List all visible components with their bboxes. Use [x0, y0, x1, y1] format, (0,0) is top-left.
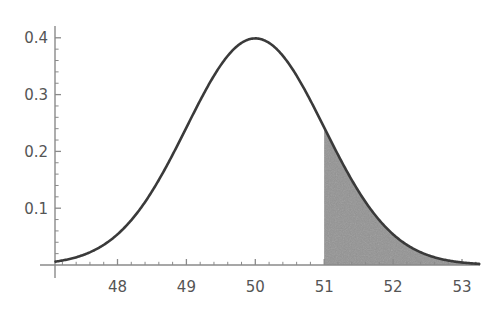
x-axis-tick-labels: 484950515253: [108, 278, 472, 296]
normal-distribution-plot: 484950515253 0.10.20.30.4: [0, 0, 493, 311]
distribution-curve: [55, 38, 479, 263]
x-tick-label: 52: [384, 278, 403, 296]
x-tick-label: 51: [315, 278, 334, 296]
x-tick-label: 49: [177, 278, 196, 296]
x-tick-label: 48: [108, 278, 127, 296]
x-tick-label: 53: [452, 278, 471, 296]
x-tick-label: 50: [246, 278, 265, 296]
y-tick-label: 0.2: [24, 143, 48, 161]
y-tick-label: 0.4: [24, 29, 48, 47]
y-tick-label: 0.3: [24, 86, 48, 104]
axes-group: [40, 26, 480, 278]
y-tick-label: 0.1: [24, 200, 48, 218]
y-axis-ticks: [55, 38, 61, 254]
y-axis-tick-labels: 0.10.20.30.4: [24, 29, 48, 217]
chart-figure: 484950515253 0.10.20.30.4: [0, 0, 493, 311]
